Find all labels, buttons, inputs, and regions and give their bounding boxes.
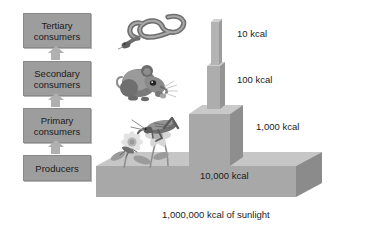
block-side-face [220, 62, 225, 109]
block-side-face [219, 19, 222, 65]
trophic-label-line2: consumers [34, 126, 80, 137]
block-front-face [211, 22, 219, 65]
pyramid-block-secondary-consumers [207, 62, 225, 110]
trophic-label-line1: Secondary [34, 68, 79, 79]
energy-pyramid-figure: Tertiary consumers Secondary consumers P… [0, 0, 374, 230]
snake-illustration [118, 8, 190, 50]
block-front-face [189, 114, 230, 166]
trophic-label-line1: Producers [35, 163, 78, 174]
pyramid-block-primary-consumers [189, 105, 243, 167]
sunlight-caption: 1,000,000 kcal of sunlight [162, 209, 270, 220]
pyramid-block-tertiary-consumers [211, 19, 222, 65]
trophic-label-producers: Producers [23, 155, 91, 181]
trophic-label-line1: Tertiary [41, 20, 72, 31]
trophic-label-tertiary-consumers: Tertiary consumers [23, 13, 91, 48]
mouse-illustration [115, 58, 179, 106]
block-side-face [230, 105, 243, 166]
arrow-producers-to-primary [51, 146, 60, 154]
trophic-label-line1: Primary [41, 115, 74, 126]
energy-label-tertiary: 10 kcal [237, 28, 267, 39]
flower-and-grasshopper-illustration [98, 108, 194, 170]
energy-label-secondary: 100 kcal [237, 74, 272, 85]
block-front-face [96, 166, 296, 197]
trophic-label-line2: consumers [34, 79, 80, 90]
trophic-label-secondary-consumers: Secondary consumers [23, 61, 91, 96]
trophic-label-primary-consumers: Primary consumers [23, 108, 91, 143]
trophic-label-line2: consumers [34, 31, 80, 42]
energy-label-primary: 1,000 kcal [256, 121, 299, 132]
block-front-face [207, 66, 220, 109]
energy-label-producers: 10,000 kcal [200, 170, 249, 181]
arrow-primary-to-secondary [51, 99, 60, 107]
arrow-secondary-to-tertiary [51, 52, 60, 60]
